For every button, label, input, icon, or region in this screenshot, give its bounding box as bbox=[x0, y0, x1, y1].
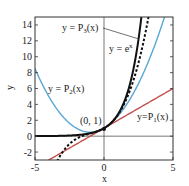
p3-leader-line bbox=[103, 28, 139, 39]
y-tick-label: 6 bbox=[27, 83, 32, 94]
y-tick-label: -2 bbox=[24, 147, 32, 158]
y-tick-label: 2 bbox=[27, 115, 32, 126]
x-tick-label: -5 bbox=[31, 162, 39, 173]
x-tick-label: 0 bbox=[102, 162, 107, 173]
label-p3: y = P3(x) bbox=[62, 22, 98, 35]
label-p1: y=P1(x) bbox=[137, 111, 168, 124]
label-p2: y = P2(x) bbox=[48, 83, 84, 96]
y-tick-label: 4 bbox=[27, 99, 32, 110]
y-tick-label: 8 bbox=[27, 67, 32, 78]
x-tick-label: 5 bbox=[171, 162, 176, 173]
y-tick-label: 0 bbox=[27, 131, 32, 142]
ticks: -202468101214-505 bbox=[22, 19, 176, 173]
label-point: (0, 1) bbox=[80, 115, 102, 127]
y-tick-label: 14 bbox=[22, 19, 32, 30]
y-axis-label: y bbox=[4, 85, 15, 90]
point-marker bbox=[102, 127, 106, 131]
taylor-polynomial-chart: -202468101214-505 y = P3(x) y = ex y = P… bbox=[0, 0, 189, 186]
y-tick-label: 12 bbox=[22, 35, 32, 46]
x-axis-label: x bbox=[102, 173, 107, 184]
label-ex: y = ex bbox=[109, 42, 133, 54]
y-tick-label: 10 bbox=[22, 51, 32, 62]
